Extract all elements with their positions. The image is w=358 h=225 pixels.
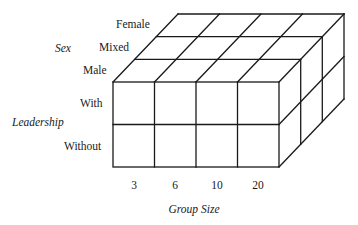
leadership-level-with: With <box>80 98 103 110</box>
leadership-axis-title: Leadership <box>12 117 64 129</box>
group-size-3: 3 <box>131 180 137 192</box>
leadership-level-without: Without <box>64 141 101 153</box>
group-size-6: 6 <box>172 180 178 192</box>
group-size-20: 20 <box>252 180 264 192</box>
cube-grid <box>0 0 358 225</box>
sex-level-male: Male <box>83 65 107 77</box>
sex-level-female: Female <box>116 19 150 31</box>
front-face <box>113 82 279 167</box>
group-size-10: 10 <box>211 180 223 192</box>
group-size-axis-title: Group Size <box>168 204 219 216</box>
sex-axis-title: Sex <box>55 43 71 55</box>
sex-level-mixed: Mixed <box>99 42 129 54</box>
factorial-design-diagram: Sex Female Mixed Male With Leadership Wi… <box>0 0 358 225</box>
